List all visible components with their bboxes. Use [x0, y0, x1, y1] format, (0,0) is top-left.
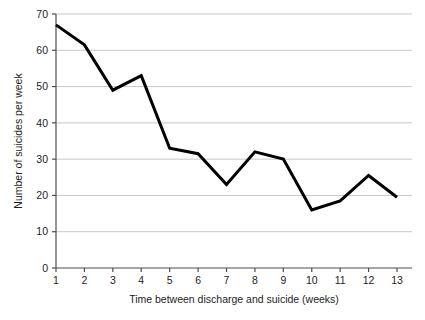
y-tick-label: 10 [36, 225, 48, 237]
x-axis-title: Time between discharge and suicide (week… [129, 293, 339, 305]
x-tick-label: 1 [53, 274, 59, 286]
y-tick-label: 70 [36, 8, 48, 20]
x-tick-label: 9 [280, 274, 286, 286]
y-tick-label: 20 [36, 189, 48, 201]
y-axis-title: Number of suicides per week [12, 73, 24, 209]
y-tick-label: 40 [36, 117, 48, 129]
x-tick-label: 2 [81, 274, 87, 286]
y-tick-label: 50 [36, 80, 48, 92]
x-tick-label: 3 [110, 274, 116, 286]
x-tick-label: 10 [306, 274, 318, 286]
y-tick-label: 30 [36, 153, 48, 165]
y-tick-label: 60 [36, 44, 48, 56]
x-tick-label: 13 [391, 274, 403, 286]
chart-background [0, 0, 425, 320]
line-chart: 010203040506070 12345678910111213 Time b… [0, 0, 425, 320]
x-tick-label: 12 [363, 274, 375, 286]
x-tick-label: 7 [224, 274, 230, 286]
x-tick-label: 5 [167, 274, 173, 286]
x-tick-label: 8 [252, 274, 258, 286]
x-tick-label: 6 [195, 274, 201, 286]
x-tick-label: 11 [335, 274, 346, 286]
y-tick-label: 0 [42, 262, 48, 274]
chart-figure: 010203040506070 12345678910111213 Time b… [0, 0, 425, 320]
x-tick-label: 4 [138, 274, 144, 286]
